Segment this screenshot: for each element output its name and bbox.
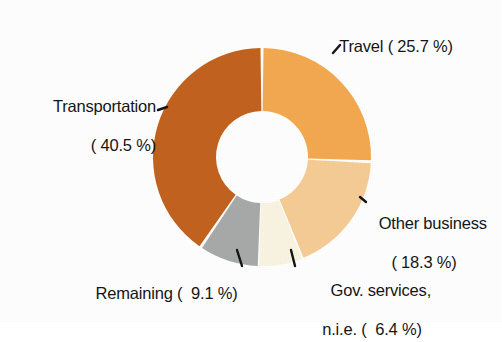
slice-label-gov-services-name: Gov. services,	[331, 281, 432, 299]
slice-label-travel-text: Travel ( 25.7 %)	[339, 37, 453, 55]
slice-label-other-business-name: Other business	[379, 214, 487, 232]
slice-label-transportation-value: ( 40.5 %)	[6, 136, 156, 155]
slice-label-transportation-name: Transportation	[53, 97, 156, 115]
slice-label-remaining: Remaining ( 9.1 %)	[78, 265, 238, 323]
slice-label-gov-services-value: n.i.e. ( 6.4 %)	[292, 320, 452, 339]
slice-label-transportation: Transportation ( 40.5 %)	[6, 78, 156, 195]
slice-label-remaining-text: Remaining ( 9.1 %)	[96, 284, 238, 302]
slice-label-travel: Travel ( 25.7 %)	[322, 18, 453, 76]
slice-label-gov-services: Gov. services, n.i.e. ( 6.4 %)	[292, 262, 452, 342]
